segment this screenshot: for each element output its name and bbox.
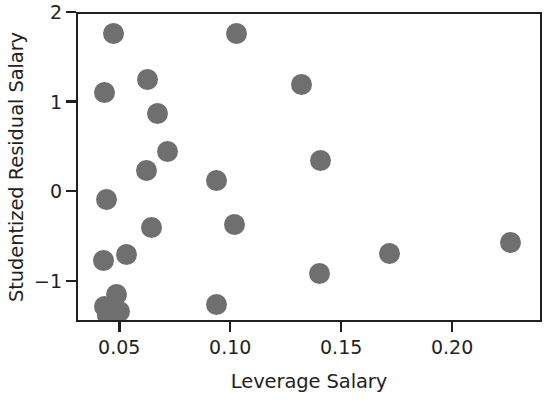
x-axis-tick-label: 0.10 xyxy=(195,336,265,358)
data-point xyxy=(500,232,521,253)
y-axis-tick xyxy=(66,11,76,14)
x-axis-tick-label: 0.15 xyxy=(306,336,376,358)
data-point xyxy=(94,82,115,103)
y-axis-tick-label: 2 xyxy=(22,1,62,23)
data-point xyxy=(103,23,124,44)
y-axis-tick-label: 1 xyxy=(22,91,62,113)
data-point xyxy=(147,103,168,124)
data-point xyxy=(226,23,247,44)
data-point xyxy=(310,150,331,171)
scatter-plot-figure: Studentized Residual Salary −1012 0.050.… xyxy=(0,0,551,408)
y-axis-tick xyxy=(66,100,76,103)
x-axis-tick xyxy=(340,322,343,332)
y-axis-tick-label: 0 xyxy=(22,180,62,202)
x-axis-tick xyxy=(229,322,232,332)
data-point xyxy=(93,250,114,271)
data-point xyxy=(157,141,178,162)
data-point xyxy=(96,189,117,210)
x-axis-tick-label: 0.20 xyxy=(417,336,487,358)
x-axis-tick-label: 0.05 xyxy=(84,336,154,358)
plot-area xyxy=(78,14,540,320)
data-point xyxy=(309,263,330,284)
y-axis-tick xyxy=(66,190,76,193)
data-point xyxy=(136,160,157,181)
data-point xyxy=(291,74,312,95)
data-point xyxy=(379,243,400,264)
data-point xyxy=(141,217,162,238)
x-axis-title: Leverage Salary xyxy=(76,370,542,393)
x-axis-tick xyxy=(451,322,454,332)
data-point xyxy=(137,69,158,90)
y-axis-tick-label: −1 xyxy=(22,270,62,292)
plot-frame xyxy=(76,12,542,322)
x-axis-tick xyxy=(118,322,121,332)
data-point xyxy=(206,294,227,315)
data-point xyxy=(116,244,137,265)
y-axis-tick xyxy=(66,280,76,283)
data-point xyxy=(224,214,245,235)
data-point xyxy=(206,170,227,191)
